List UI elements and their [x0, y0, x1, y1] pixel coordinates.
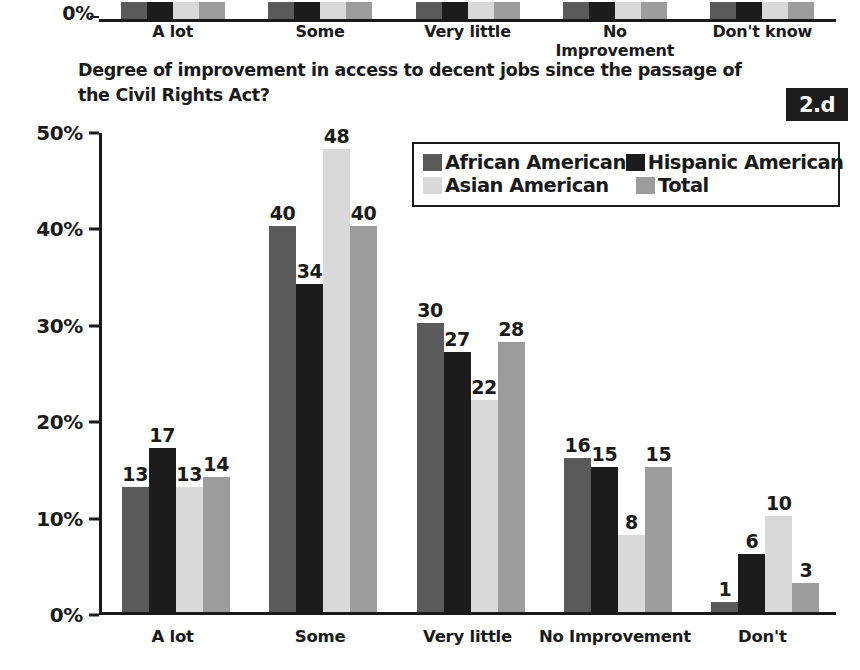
bar: [765, 516, 792, 612]
bar-group: 13171314: [122, 133, 230, 612]
bar: [122, 487, 149, 612]
y-axis-tick-label: 30%: [5, 314, 83, 338]
bar-value-label: 28: [498, 318, 524, 340]
bar: [417, 323, 444, 612]
legend-swatch-icon: [626, 154, 645, 171]
bar-value-label: 6: [745, 530, 758, 552]
bar-value-label: 13: [122, 463, 148, 485]
y-axis-tick-label: 10%: [5, 507, 83, 531]
bar-slot: 17: [149, 133, 176, 612]
bar-value-label: 15: [646, 443, 672, 465]
bar: [645, 467, 672, 612]
bar: [323, 149, 350, 612]
legend-item-total: Total: [636, 174, 709, 197]
main-bar-chart: 0%10%20%30%40%50% 1317131440344840302722…: [0, 0, 860, 670]
bar-value-label: 14: [203, 453, 229, 475]
legend-label: African American: [445, 151, 626, 174]
bar-value-label: 30: [417, 299, 443, 321]
bar-value-label: 40: [270, 202, 296, 224]
bar: [498, 342, 525, 612]
legend-item-african-american: African American: [423, 151, 626, 174]
bar: [149, 448, 176, 612]
bar: [618, 535, 645, 612]
bar-value-label: 27: [444, 328, 470, 350]
bar: [711, 602, 738, 612]
y-axis-tick-mark: [89, 228, 99, 231]
bar: [444, 352, 471, 612]
bar-value-label: 17: [149, 424, 175, 446]
legend-swatch-icon: [423, 177, 442, 194]
bar-slot: 13: [122, 133, 149, 612]
y-axis-tick-label: 50%: [5, 121, 83, 145]
x-axis-category-label: Some: [295, 627, 346, 646]
y-axis-tick-mark: [89, 517, 99, 520]
bar: [269, 226, 296, 612]
bar-value-label: 13: [176, 463, 202, 485]
y-axis-tick-mark: [89, 614, 99, 617]
bar-value-label: 34: [297, 260, 323, 282]
bar-value-label: 1: [718, 578, 731, 600]
bar: [176, 487, 203, 612]
legend-item-asian-american: Asian American: [423, 174, 636, 197]
legend-label: Hispanic American: [648, 151, 844, 174]
x-axis-category-label: A lot: [152, 627, 194, 646]
legend-row: African American Hispanic American: [423, 151, 832, 174]
bar: [350, 226, 377, 612]
y-axis-tick-label: 40%: [5, 217, 83, 241]
y-axis-tick-mark: [89, 421, 99, 424]
bar-value-label: 16: [565, 434, 591, 456]
bar-value-label: 10: [766, 492, 792, 514]
y-axis-tick-label: 0%: [5, 603, 83, 627]
legend-label: Asian American: [445, 174, 609, 197]
legend-swatch-icon: [636, 177, 655, 194]
legend-item-hispanic-american: Hispanic American: [626, 151, 844, 174]
x-axis-category-label: Very little: [423, 627, 512, 646]
x-axis-category-label: No Improvement: [539, 627, 691, 646]
bar-slot: 34: [296, 133, 323, 612]
y-axis-tick-mark: [89, 132, 99, 135]
bar: [564, 458, 591, 612]
bar-slot: 48: [323, 133, 350, 612]
bar-slot: 40: [350, 133, 377, 612]
x-axis-category-label: Don't: [738, 627, 786, 646]
bar: [792, 583, 819, 612]
bar: [738, 554, 765, 612]
bar-value-label: 40: [351, 202, 377, 224]
bar-group: 40344840: [269, 133, 377, 612]
bar-slot: 14: [203, 133, 230, 612]
legend-label: Total: [658, 174, 709, 197]
bar-value-label: 15: [592, 443, 618, 465]
bar-value-label: 3: [799, 559, 812, 581]
bar-slot: 13: [176, 133, 203, 612]
bar-value-label: 48: [324, 125, 350, 147]
bar-value-label: 8: [625, 511, 638, 533]
bar: [296, 284, 323, 612]
chart-legend: African American Hispanic American Asian…: [412, 142, 840, 207]
bar-slot: 40: [269, 133, 296, 612]
y-axis-tick-label: 20%: [5, 410, 83, 434]
bar-value-label: 22: [471, 376, 497, 398]
y-axis-tick-mark: [89, 324, 99, 327]
legend-swatch-icon: [423, 154, 442, 171]
bar: [471, 400, 498, 612]
bar: [203, 477, 230, 612]
legend-row: Asian American Total: [423, 174, 832, 197]
bar: [591, 467, 618, 612]
